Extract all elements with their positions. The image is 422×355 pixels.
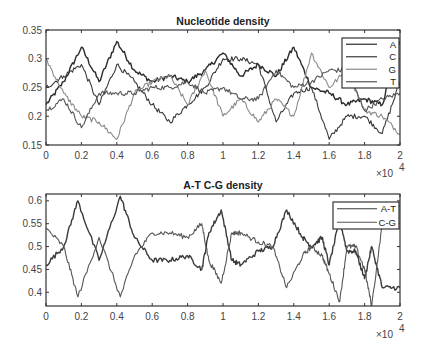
x-exponent-label: ×10 [376, 168, 393, 179]
y-tick-label: 0.35 [23, 25, 43, 36]
y-tick-label: 0.3 [28, 53, 42, 64]
x-tick-label: 1 [220, 150, 226, 161]
x-tick-label: 1.2 [251, 311, 265, 322]
plot-title: A-T C-G density [183, 179, 262, 191]
x-tick-label: 0.2 [74, 311, 88, 322]
y-tick-label: 0.45 [23, 264, 43, 275]
x-tick-label: 0.6 [145, 311, 159, 322]
y-tick-label: 0.55 [23, 218, 43, 229]
nucleotide-density-plot: Nucleotide density00.20.40.60.811.21.41.… [23, 15, 405, 179]
x-tick-label: 2 [397, 150, 403, 161]
y-tick-label: 0.25 [23, 82, 43, 93]
x-exponent-value: 4 [399, 323, 405, 334]
y-tick-label: 0.2 [28, 111, 42, 122]
legend-label: A-T [381, 203, 397, 214]
y-tick-label: 0.15 [23, 140, 43, 151]
x-tick-label: 0.4 [110, 150, 124, 161]
y-tick-label: 0.5 [28, 241, 42, 252]
legend-label: G [389, 64, 396, 75]
x-exponent-value: 4 [399, 162, 405, 173]
x-tick-label: 0 [43, 311, 49, 322]
x-tick-label: 1.8 [358, 150, 372, 161]
plot-title: Nucleotide density [176, 15, 270, 27]
x-tick-label: 0.8 [181, 150, 195, 161]
legend: A-TC-G [333, 202, 399, 229]
x-tick-label: 0.4 [110, 311, 124, 322]
y-tick-label: 0.6 [28, 195, 42, 206]
legend: ACGT [342, 38, 399, 88]
legend-label: A [390, 39, 397, 50]
at-cg-density-plot: A-T C-G density00.20.40.60.811.21.41.61.… [23, 179, 405, 340]
x-tick-label: 1.4 [287, 311, 301, 322]
y-tick-label: 0.4 [28, 287, 42, 298]
legend-label: C [389, 51, 396, 62]
x-exponent-label: ×10 [376, 329, 393, 340]
x-tick-label: 1 [220, 311, 226, 322]
x-tick-label: 2 [397, 311, 403, 322]
x-tick-label: 1.4 [287, 150, 301, 161]
figure: Nucleotide density00.20.40.60.811.21.41.… [0, 0, 422, 355]
x-tick-label: 0.6 [145, 150, 159, 161]
x-tick-label: 1.6 [322, 311, 336, 322]
x-tick-label: 0 [43, 150, 49, 161]
x-tick-label: 1.2 [251, 150, 265, 161]
x-tick-label: 1.8 [358, 311, 372, 322]
x-tick-label: 0.8 [181, 311, 195, 322]
legend-label: C-G [379, 217, 396, 228]
x-tick-label: 1.6 [322, 150, 336, 161]
legend-label: T [390, 76, 396, 87]
x-tick-label: 0.2 [74, 150, 88, 161]
